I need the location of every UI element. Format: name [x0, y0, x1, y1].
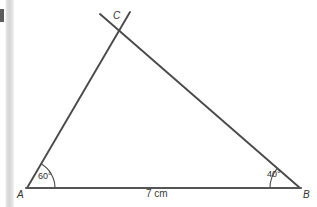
angle-label-b: 40°	[267, 170, 281, 179]
vertex-label-b: B	[303, 190, 310, 200]
side-length-label-ab: 7 cm	[146, 189, 168, 199]
construction-line-from-a	[27, 12, 130, 188]
geometry-figure: A B C 60° 40° 7 cm	[0, 0, 317, 207]
construction-line-from-b	[100, 14, 300, 188]
angle-label-a: 60°	[38, 172, 52, 181]
vertex-label-c: C	[113, 11, 120, 21]
vertex-label-a: A	[17, 190, 24, 200]
